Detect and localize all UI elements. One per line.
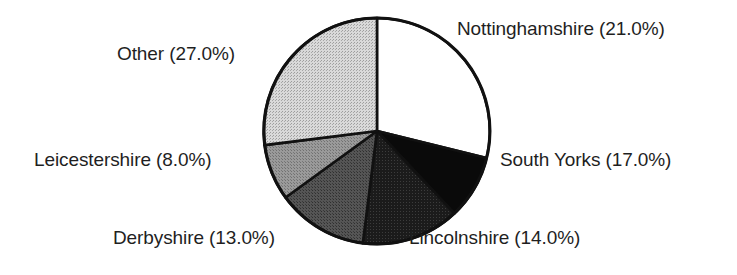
pie-label-lincolnshire: Lincolnshire (14.0%) — [409, 228, 580, 247]
pie-label-south-yorks: South Yorks (17.0%) — [500, 150, 671, 169]
pie-chart-figure: Nottinghamshire (21.0%) South Yorks (17.… — [0, 0, 737, 275]
pie-label-derbyshire: Derbyshire (13.0%) — [113, 228, 275, 247]
pie-label-nottinghamshire: Nottinghamshire (21.0%) — [457, 19, 665, 38]
pie-label-other: Other (27.0%) — [117, 44, 235, 63]
pie-label-leicestershire: Leicestershire (8.0%) — [34, 150, 211, 169]
pie-slice-other[interactable] — [264, 18, 377, 145]
pie-chart-svg — [0, 0, 737, 275]
